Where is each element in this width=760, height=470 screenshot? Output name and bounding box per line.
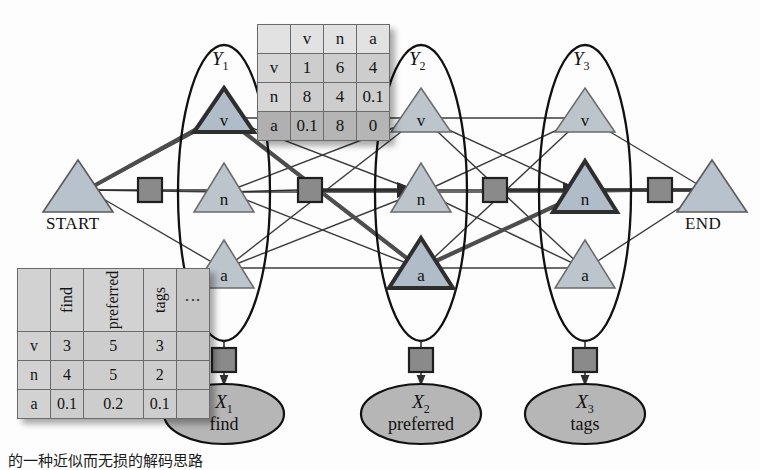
table-row: v 1 6 4 xyxy=(258,54,390,83)
svg-text:v: v xyxy=(417,111,426,130)
emission-cell: 0.2 xyxy=(84,390,144,419)
observation-word-2: preferred xyxy=(361,415,481,434)
emission-cell xyxy=(176,361,209,390)
emission-cell: 3 xyxy=(143,332,176,361)
factor-square-y2-y3 xyxy=(483,178,507,202)
transition-cell: 0 xyxy=(357,112,390,141)
transition-cell: 4 xyxy=(324,83,357,112)
emission-cell: 4 xyxy=(51,361,84,390)
table-row: v 3 5 3 xyxy=(18,332,210,361)
svg-text:n: n xyxy=(417,190,426,209)
emission-table-corner xyxy=(18,269,51,332)
emission-cell: 5 xyxy=(84,361,144,390)
emission-cell: 0.1 xyxy=(143,390,176,419)
transition-row-header: n xyxy=(258,83,291,112)
emission-col-header-ellipsis: ⋮ xyxy=(176,269,209,332)
transition-col-header: n xyxy=(324,25,357,54)
transition-row-header: v xyxy=(258,54,291,83)
table-header-row: find preferred tags ⋮ xyxy=(18,269,210,332)
transition-col-header: a xyxy=(357,25,390,54)
emission-col-header: tags xyxy=(143,269,176,332)
transition-cell: 8 xyxy=(291,83,324,112)
table-row: n 8 4 0.1 xyxy=(258,83,390,112)
emission-row-header: n xyxy=(18,361,51,390)
end-node xyxy=(677,160,747,212)
figure-caption: 的一种近似而无损的解码思路 xyxy=(8,449,203,470)
observation-label-X2: X2 preferred xyxy=(361,392,481,434)
table-row: a 0.1 8 0 xyxy=(258,112,390,141)
emission-cell xyxy=(176,332,209,361)
observation-label-X3: X3 tags xyxy=(525,392,645,434)
svg-text:n: n xyxy=(581,190,590,209)
transition-cell: 8 xyxy=(324,112,357,141)
emission-links xyxy=(224,341,585,385)
emission-cell: 0.1 xyxy=(51,390,84,419)
factor-square-emission-3 xyxy=(573,348,597,372)
svg-text:v: v xyxy=(220,111,229,130)
start-node xyxy=(43,160,113,212)
transition-row-header: a xyxy=(258,112,291,141)
column-label-Y1: Y1 xyxy=(212,48,229,74)
factor-square-start xyxy=(138,178,162,202)
emission-cell: 2 xyxy=(143,361,176,390)
emission-cell: 3 xyxy=(51,332,84,361)
emission-row-header: v xyxy=(18,332,51,361)
emission-factor-nodes xyxy=(212,348,597,372)
table-header-row: v n a xyxy=(258,25,390,54)
transition-cell: 0.1 xyxy=(291,112,324,141)
table-row: n 4 5 2 xyxy=(18,361,210,390)
emission-cell xyxy=(176,390,209,419)
transition-col-header: v xyxy=(291,25,324,54)
transition-cell: 0.1 xyxy=(357,83,390,112)
svg-text:a: a xyxy=(417,266,425,285)
state-nodes-Y1: v n a xyxy=(194,88,254,288)
transition-cell: 4 xyxy=(357,54,390,83)
column-label-Y2: Y2 xyxy=(409,48,426,74)
transition-table-corner xyxy=(258,25,291,54)
transition-cell: 1 xyxy=(291,54,324,83)
svg-text:v: v xyxy=(581,111,590,130)
svg-text:n: n xyxy=(220,190,229,209)
table-row: a 0.1 0.2 0.1 xyxy=(18,390,210,419)
svg-text:a: a xyxy=(581,266,589,285)
factor-square-y1-y2 xyxy=(298,178,322,202)
factor-square-end xyxy=(648,178,672,202)
column-label-Y3: Y3 xyxy=(573,48,590,74)
emission-row-header: a xyxy=(18,390,51,419)
emission-probability-table: find preferred tags ⋮ v 3 5 3 n 4 5 2 xyxy=(17,268,210,419)
start-label: START xyxy=(46,214,99,234)
observation-word-3: tags xyxy=(525,415,645,434)
emission-cell: 5 xyxy=(84,332,144,361)
emission-col-header: preferred xyxy=(84,269,144,332)
factor-square-emission-1 xyxy=(212,348,236,372)
transition-probability-table: v n a v 1 6 4 n 8 4 0.1 a 0.1 8 0 xyxy=(257,24,390,141)
factor-square-emission-2 xyxy=(409,348,433,372)
end-label: END xyxy=(685,214,721,234)
transition-cell: 6 xyxy=(324,54,357,83)
svg-text:a: a xyxy=(220,266,228,285)
emission-col-header: find xyxy=(51,269,84,332)
